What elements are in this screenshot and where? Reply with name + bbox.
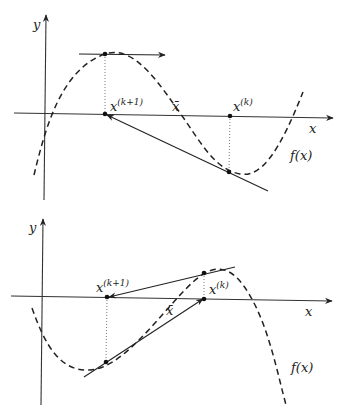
top-guide-xk [229, 116, 230, 172]
bottom-fx-label: f(x) [290, 360, 313, 375]
bottom-panel: y x x(k+1) x̄ x(k) f(x) [11, 219, 332, 405]
bottom-y-label: y [28, 220, 37, 235]
bottom-xk1-label: x(k+1) [96, 278, 130, 295]
top-peak-point [103, 52, 108, 57]
bottom-xbar-label: x̄ [166, 303, 174, 318]
newton-method-diagram: y x x(k+1) x̄ x(k) f(x) y x [0, 0, 347, 415]
top-xk1-label: x(k+1) [110, 97, 144, 114]
bottom-xk-label: x(k) [209, 280, 229, 297]
top-x-label: x [309, 121, 317, 136]
top-panel: y x x(k+1) x̄ x(k) f(x) [14, 15, 333, 200]
bottom-xk1-point [105, 295, 110, 300]
top-xk1-point [103, 112, 108, 117]
bottom-guide-xk1 [106, 297, 107, 362]
bottom-x-axis [11, 296, 332, 301]
top-y-label: y [32, 17, 41, 32]
top-fx-label: f(x) [289, 148, 312, 163]
bottom-tangent-lower [84, 299, 203, 377]
top-horizontal-tangent [79, 54, 165, 55]
bottom-lower-curve-point [104, 360, 109, 365]
bottom-xk-point [202, 297, 207, 302]
top-curve-point [227, 170, 232, 175]
top-xbar-label: x̄ [172, 99, 180, 114]
bottom-y-axis [41, 219, 43, 405]
top-xk-label: x(k) [233, 97, 253, 114]
bottom-function-curve [32, 269, 286, 405]
top-y-axis [44, 15, 46, 200]
bottom-x-label: x [305, 304, 313, 319]
top-xk-point [228, 114, 233, 119]
bottom-upper-curve-point [202, 271, 207, 276]
top-tangent-line [107, 115, 268, 191]
